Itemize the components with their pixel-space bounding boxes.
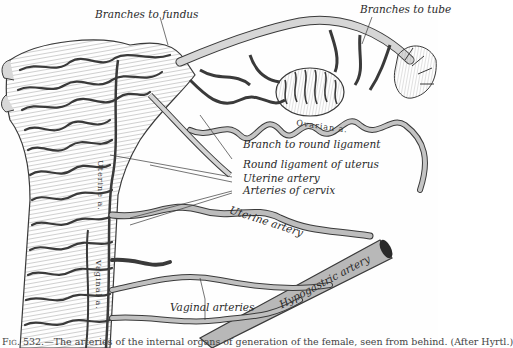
ovary	[276, 68, 344, 116]
caption-fig-number: Fig. 532.	[2, 337, 44, 347]
label-branches-to-fundus: Branches to fundus	[95, 9, 199, 20]
label-branches-to-tube: Branches to tube	[360, 4, 451, 15]
label-round-ligament-of-uterus: Round ligament of uterus	[243, 159, 379, 170]
label-branch-to-round-ligament: Branch to round ligament	[243, 139, 380, 150]
label-uterine-artery-upper: Uterine artery	[243, 173, 320, 184]
figure-caption: Fig. 532.—The arteries of the internal o…	[2, 337, 513, 348]
label-vaginal-arteries: Vaginal arteries	[170, 302, 254, 313]
label-vaginal-a-vertical: Vaginal a.	[94, 260, 102, 310]
label-arteries-of-cervix: Arteries of cervix	[243, 185, 335, 196]
label-uterine-a-vertical: Uterine a.	[96, 160, 104, 211]
caption-text: —The arteries of the internal organs of …	[44, 337, 513, 347]
fallopian-tube	[180, 20, 410, 62]
fimbriae	[394, 46, 436, 98]
